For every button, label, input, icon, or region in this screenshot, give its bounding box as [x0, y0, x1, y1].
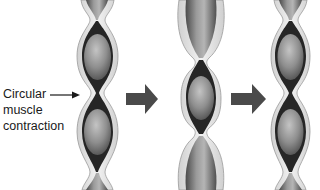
bolus	[188, 76, 214, 120]
tube-stage-2	[178, 0, 224, 190]
label-line-1: Circular	[3, 86, 64, 102]
label-line-2: muscle	[3, 102, 64, 118]
arrow-right-icon	[126, 84, 158, 114]
bolus	[278, 109, 304, 155]
arrow-right-icon	[231, 84, 266, 114]
bolus	[278, 34, 304, 80]
label-line-3: contraction	[3, 118, 64, 134]
bolus	[84, 34, 111, 80]
tube-stage-3	[271, 0, 310, 190]
circular-muscle-contraction-label: Circular muscle contraction	[3, 86, 64, 134]
bolus	[84, 109, 111, 155]
tube-stage-1	[77, 0, 118, 190]
